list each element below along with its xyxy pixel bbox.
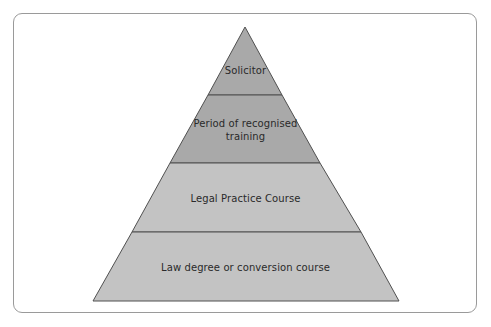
tier-label-line: Law degree or conversion course — [161, 262, 330, 273]
tier-label-lpc: Legal Practice Course — [0, 192, 491, 205]
tier-label-line: training — [0, 130, 491, 143]
tier-label-law-degree: Law degree or conversion course — [0, 261, 491, 274]
tier-label-training: Period of recognised training — [0, 117, 491, 143]
tier-label-line: Period of recognised — [0, 117, 491, 130]
tier-label-solicitor: Solicitor — [0, 64, 491, 77]
tier-solicitor-shape — [208, 27, 282, 95]
pyramid-diagram — [0, 0, 491, 327]
tier-label-line: Legal Practice Course — [190, 193, 300, 204]
tier-label-line: Solicitor — [225, 65, 266, 76]
